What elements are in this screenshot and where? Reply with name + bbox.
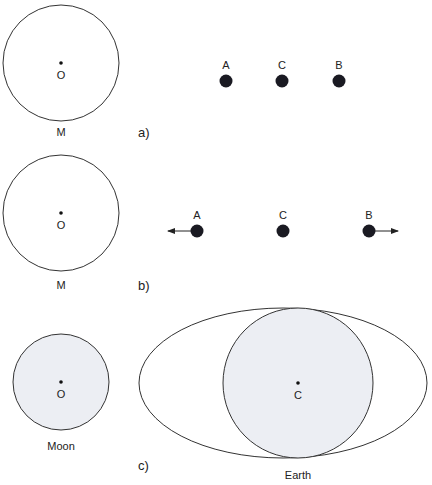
point-a (220, 75, 233, 88)
center-dot (296, 381, 300, 385)
point-label-b: B (335, 59, 342, 71)
center-dot (59, 61, 63, 65)
tidal-diagram: O M a) A C B O M b) A C B O Moon c) C (0, 0, 432, 485)
point-label-a: A (193, 209, 201, 221)
point-label-c: C (278, 59, 286, 71)
earth-label: Earth (285, 469, 311, 481)
point-a (191, 225, 204, 238)
panel-label: a) (138, 125, 150, 140)
body-label: M (56, 126, 65, 138)
moon-center-label: O (57, 388, 66, 400)
panel-label: b) (138, 278, 150, 293)
center-label: O (57, 69, 66, 81)
point-c (276, 75, 289, 88)
point-c (277, 225, 290, 238)
panel-b: O M b) A C B (3, 155, 398, 293)
moon-label: Moon (47, 440, 75, 452)
panel-c: O Moon c) C Earth (13, 308, 427, 481)
center-label: O (57, 219, 66, 231)
center-dot (59, 211, 63, 215)
earth-center-label: C (294, 389, 302, 401)
panel-label: c) (138, 458, 149, 473)
point-b (363, 225, 376, 238)
center-dot (59, 380, 63, 384)
point-label-b: B (365, 209, 372, 221)
point-label-a: A (222, 59, 230, 71)
body-label: M (56, 279, 65, 291)
point-b (333, 75, 346, 88)
point-label-c: C (279, 209, 287, 221)
panel-a: O M a) A C B (3, 5, 346, 140)
